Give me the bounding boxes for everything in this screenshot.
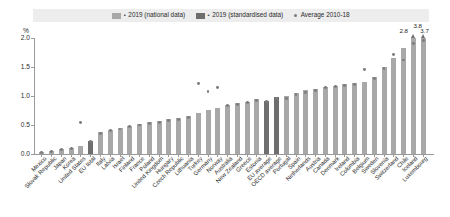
- average-marker-dot: [334, 85, 337, 88]
- bar-national[interactable]: [225, 105, 230, 154]
- bar-national[interactable]: [137, 124, 142, 154]
- x-axis-category-labels: MexicoSlovak RepublicJapanKoreaUnited St…: [34, 156, 450, 217]
- bar-national[interactable]: [391, 58, 396, 154]
- average-marker-dot: [99, 132, 102, 135]
- average-marker-dot: [70, 147, 73, 150]
- legend-swatch-standardised: [196, 13, 205, 19]
- average-marker-dot: [187, 116, 190, 119]
- y-axis-tick-label: 0.5: [8, 122, 30, 129]
- average-marker-dot: [363, 68, 366, 71]
- bar-national[interactable]: [323, 87, 328, 154]
- average-marker-dot: [197, 82, 200, 85]
- bar-national[interactable]: [215, 108, 220, 154]
- bar-national[interactable]: [342, 84, 347, 154]
- bar-national[interactable]: [206, 110, 211, 154]
- legend-entry-national: ▪ 2019 (national data): [112, 12, 185, 18]
- overflow-label-2-8: 2.8: [399, 28, 408, 34]
- bar-national[interactable]: [333, 86, 338, 154]
- average-marker-dot: [314, 89, 317, 92]
- y-axis-tick: [31, 38, 35, 39]
- bar-national[interactable]: [245, 102, 250, 154]
- average-marker-dot: [207, 90, 210, 93]
- bar-national[interactable]: [294, 93, 299, 154]
- bar-national[interactable]: [303, 90, 308, 154]
- y-axis-tick: [31, 67, 35, 68]
- average-marker-dot: [79, 121, 82, 124]
- bar-national[interactable]: [196, 113, 201, 154]
- bar-national[interactable]: [127, 126, 132, 154]
- average-marker-dot: [353, 83, 356, 86]
- legend-entry-average: Average 2010-18: [294, 12, 349, 18]
- bar-national[interactable]: [352, 83, 357, 154]
- bar-national[interactable]: [78, 146, 83, 154]
- bar-national[interactable]: [421, 38, 426, 154]
- average-marker-dot: [236, 103, 239, 106]
- average-marker-dot: [177, 118, 180, 121]
- bar-national[interactable]: [313, 89, 318, 154]
- average-marker-dot: [373, 77, 376, 80]
- bar-national[interactable]: [235, 103, 240, 154]
- bar-national[interactable]: [118, 128, 123, 154]
- average-marker-dot: [109, 129, 112, 132]
- average-marker-dot: [422, 39, 425, 42]
- bar-standardised[interactable]: [264, 101, 269, 154]
- average-marker-dot: [392, 53, 395, 56]
- bar-national[interactable]: [382, 67, 387, 154]
- bar-national[interactable]: [157, 121, 162, 154]
- average-marker-dot: [412, 42, 415, 45]
- bar-overflow-arrow-icon: [421, 34, 425, 38]
- legend-dot-icon: [294, 14, 297, 17]
- average-marker-dot: [158, 121, 161, 124]
- bar-national[interactable]: [284, 96, 289, 154]
- chart-legend: ▪ 2019 (national data) ▪ 2019 (standardi…: [33, 9, 429, 22]
- average-marker-dot: [285, 97, 288, 100]
- plot-area: 0.00.51.01.52.0 2.83.83.7: [34, 38, 434, 155]
- bar-national[interactable]: [362, 82, 367, 155]
- bar-national[interactable]: [147, 122, 152, 154]
- y-axis-tick-label: 0.0: [8, 151, 30, 158]
- bar-national[interactable]: [401, 48, 406, 154]
- bar-national[interactable]: [108, 130, 113, 154]
- bar-standardised[interactable]: [274, 97, 279, 154]
- y-axis-tick-label: 2.0: [8, 35, 30, 42]
- bar-overflow-arrow-icon: [411, 34, 415, 38]
- legend-entry-standardised: ▪ 2019 (standardised data): [196, 12, 283, 18]
- legend-label-standardised: 2019 (standardised data): [212, 12, 283, 18]
- average-marker-dot: [216, 86, 219, 89]
- y-axis-tick-label: 1.5: [8, 64, 30, 71]
- legend-separator: ▪: [124, 13, 126, 19]
- y-axis-tick: [31, 154, 35, 155]
- bar-national[interactable]: [411, 38, 416, 154]
- bar-standardised[interactable]: [88, 141, 93, 154]
- bar-national[interactable]: [186, 116, 191, 154]
- y-axis-tick: [31, 96, 35, 97]
- legend-swatch-national: [112, 13, 121, 19]
- bar-national[interactable]: [372, 77, 377, 154]
- average-marker-dot: [226, 104, 229, 107]
- bar-national[interactable]: [98, 132, 103, 154]
- bar-national[interactable]: [254, 99, 259, 154]
- bar-national[interactable]: [166, 119, 171, 154]
- legend-label-average: Average 2010-18: [301, 12, 350, 18]
- legend-label-national: 2019 (national data): [128, 12, 185, 18]
- y-axis-tick: [31, 125, 35, 126]
- y-axis-tick-label: 1.0: [8, 93, 30, 100]
- bar-national[interactable]: [176, 118, 181, 154]
- legend-separator: ▪: [208, 13, 210, 19]
- average-marker-dot: [383, 67, 386, 70]
